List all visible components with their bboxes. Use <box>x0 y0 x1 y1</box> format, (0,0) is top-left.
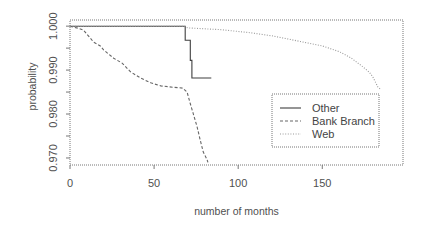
x-tick-label: 0 <box>67 177 73 189</box>
legend: Other Bank Branch Web <box>272 94 379 147</box>
y-tick-label: 0.970 <box>47 144 59 172</box>
survival-chart: 050100150 0.9700.9800.9901.000 number of… <box>0 0 426 232</box>
y-axis-title: probability <box>26 62 38 111</box>
y-tick-label: 0.980 <box>47 100 59 128</box>
series-web-line <box>70 26 381 90</box>
x-tick-label: 100 <box>229 177 247 189</box>
series-bank-branch-line <box>70 26 208 162</box>
x-tick-label: 150 <box>313 177 331 189</box>
x-axis: 050100150 <box>67 165 332 189</box>
y-tick-label: 0.990 <box>47 56 59 84</box>
x-tick-label: 50 <box>148 177 160 189</box>
y-tick-label: 1.000 <box>47 12 59 40</box>
legend-label: Web <box>312 128 334 140</box>
chart-canvas: 050100150 0.9700.9800.9901.000 number of… <box>0 0 426 232</box>
y-axis: 0.9700.9800.9901.000 <box>47 12 70 171</box>
x-axis-title: number of months <box>194 205 279 217</box>
legend-label: Bank Branch <box>312 115 375 127</box>
series-other-line <box>70 26 211 78</box>
legend-label: Other <box>312 102 340 114</box>
